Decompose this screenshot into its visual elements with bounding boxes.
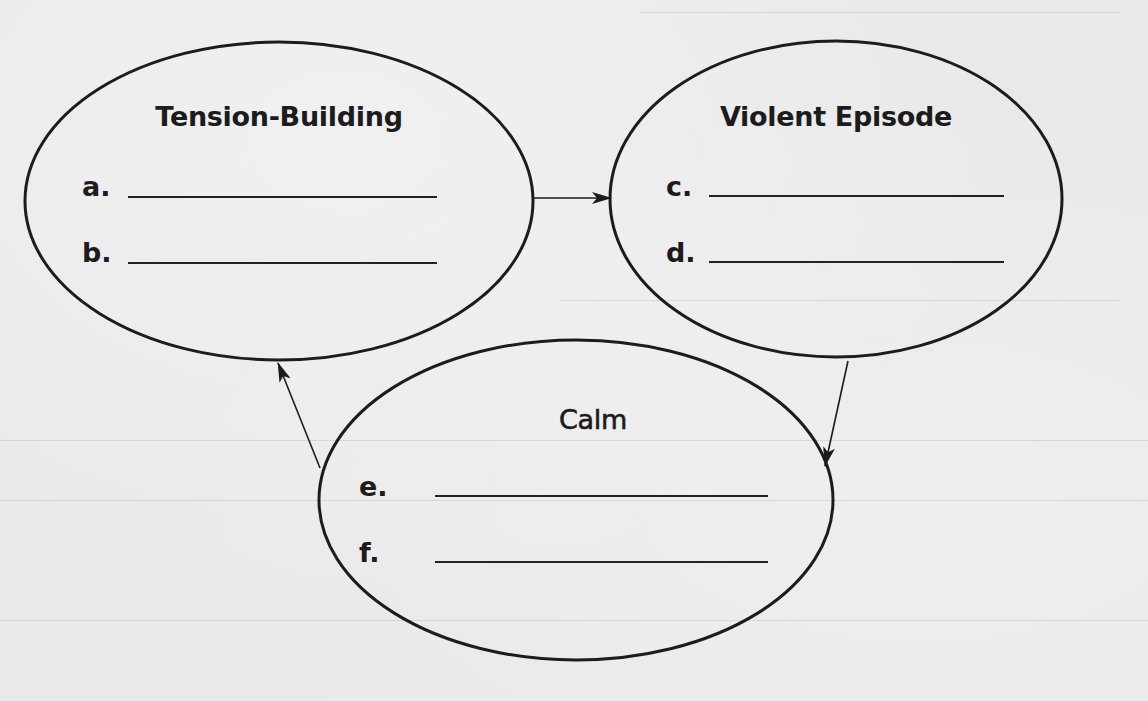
worksheet-page: Tension-Building a. b. Violent Episode c… — [0, 0, 1148, 701]
item-label-f: f. — [359, 537, 380, 568]
stage-title-violent-episode: Violent Episode — [720, 101, 952, 132]
item-label-c: c. — [666, 171, 692, 202]
answer-blank-a[interactable] — [128, 196, 437, 198]
arrow-calm-to-tension — [278, 363, 320, 468]
stage-ellipse-calm — [319, 340, 833, 660]
item-label-a: a. — [82, 171, 110, 202]
answer-blank-c[interactable] — [709, 195, 1004, 197]
answer-blank-b[interactable] — [128, 262, 437, 264]
item-label-d: d. — [666, 237, 696, 268]
answer-blank-f[interactable] — [435, 561, 768, 563]
answer-blank-d[interactable] — [709, 261, 1004, 263]
stage-title-calm: Calm — [559, 404, 627, 435]
arrow-violent-to-calm — [825, 361, 848, 466]
answer-blank-e[interactable] — [435, 495, 768, 497]
item-label-e: e. — [359, 471, 388, 502]
item-label-b: b. — [82, 237, 112, 268]
stage-title-tension-building: Tension-Building — [155, 101, 402, 132]
